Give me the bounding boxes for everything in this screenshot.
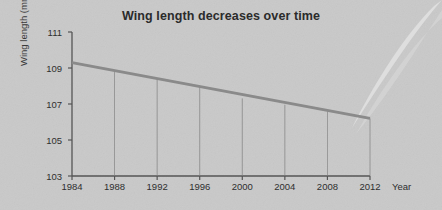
x-tick-label: 1996: [189, 181, 210, 192]
x-tick-label: 1992: [147, 181, 168, 192]
x-tick-label: 2012: [359, 181, 380, 192]
x-axis-label: Year: [392, 181, 411, 192]
x-tick-label: 2008: [317, 181, 338, 192]
x-tick-label: 1984: [61, 181, 82, 192]
x-tick-label: 2000: [232, 181, 253, 192]
x-tick-label: 2004: [274, 181, 295, 192]
chart-plot-area: [0, 0, 442, 210]
x-tick-label: 1988: [104, 181, 125, 192]
